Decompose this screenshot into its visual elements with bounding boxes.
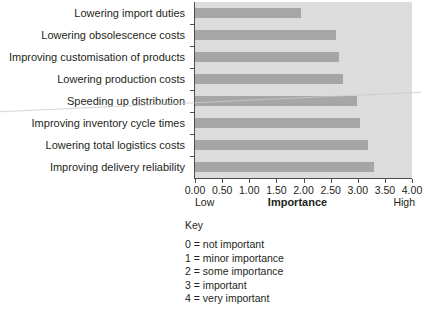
x-axis-tick: [358, 179, 359, 183]
bar: [195, 96, 357, 106]
y-axis-tick: [190, 112, 194, 113]
axis-high-label: High: [393, 196, 415, 208]
y-axis-line: [194, 2, 195, 178]
bar: [195, 52, 339, 62]
bar-row: [195, 68, 412, 90]
x-axis-tick: [412, 179, 413, 183]
x-axis-title-row: Low Importance High: [180, 196, 415, 210]
x-axis-tick-label: 4.00: [392, 184, 427, 196]
plot-area: [195, 2, 412, 178]
y-axis-tick: [190, 68, 194, 69]
key-item-list: 0 = not important1 = minor importance2 =…: [185, 238, 385, 306]
bar: [195, 140, 368, 150]
category-label: Lowering import duties: [74, 2, 185, 24]
category-label: Lowering production costs: [57, 68, 185, 90]
category-label: Lowering obsolescence costs: [41, 24, 185, 46]
category-label: Speeding up distribution: [67, 90, 185, 112]
bar: [195, 30, 336, 40]
bar: [195, 162, 374, 172]
key-item: 3 = important: [185, 279, 385, 293]
bar-row: [195, 112, 412, 134]
y-axis-tick: [190, 156, 194, 157]
x-axis-tick: [331, 179, 332, 183]
y-axis-tick: [190, 24, 194, 25]
x-axis-title: Importance: [180, 196, 415, 208]
bar-row: [195, 134, 412, 156]
key-item: 4 = very important: [185, 292, 385, 306]
chart-key: Key 0 = not important1 = minor importanc…: [185, 219, 385, 306]
x-axis-tick: [222, 179, 223, 183]
category-label: Improving inventory cycle times: [32, 112, 185, 134]
x-axis-tick: [276, 179, 277, 183]
bar-row: [195, 2, 412, 24]
key-title: Key: [185, 219, 385, 231]
x-axis-tick: [195, 179, 196, 183]
bar: [195, 8, 301, 18]
x-axis-tick: [249, 179, 250, 183]
x-axis-tick: [304, 179, 305, 183]
y-axis-tick: [190, 90, 194, 91]
y-axis-tick: [190, 46, 194, 47]
y-axis-tick: [190, 134, 194, 135]
bar-row: [195, 24, 412, 46]
key-item: 2 = some importance: [185, 265, 385, 279]
bar-row: [195, 156, 412, 178]
category-label: Improving customisation of products: [9, 46, 185, 68]
category-label: Improving delivery reliability: [50, 156, 185, 178]
category-label: Lowering total logistics costs: [46, 134, 185, 156]
category-axis-labels: Lowering import dutiesLowering obsolesce…: [0, 2, 190, 178]
bar: [195, 74, 343, 84]
x-axis-tick: [385, 179, 386, 183]
bar: [195, 118, 360, 128]
bar-row: [195, 90, 412, 112]
key-item: 1 = minor importance: [185, 252, 385, 266]
bar-row: [195, 46, 412, 68]
key-item: 0 = not important: [185, 238, 385, 252]
